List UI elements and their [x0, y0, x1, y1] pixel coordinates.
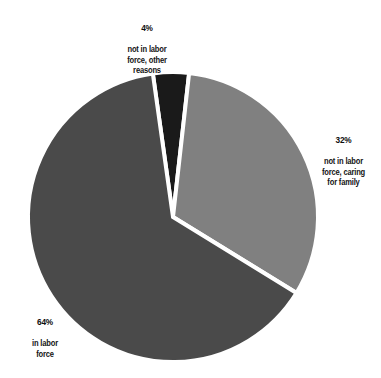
- slice-label-caring-for-family: 32% not in labor force, caring for famil…: [311, 124, 377, 198]
- slice-description-other-reasons: not in labor force, other reasons: [90, 44, 204, 75]
- pie-chart-figure: 4% not in labor force, other reasons 32%…: [0, 0, 381, 378]
- slice-label-other-reasons: 4% not in labor force, other reasons: [90, 12, 204, 86]
- slice-percent-other-reasons: 4%: [90, 22, 204, 34]
- slice-percent-in-labor-force: 64%: [7, 316, 83, 328]
- slice-description-in-labor-force: in labor force: [7, 338, 83, 359]
- slice-description-caring-for-family: not in labor force, caring for family: [311, 156, 377, 187]
- slice-label-in-labor-force: 64% in labor force: [7, 306, 83, 370]
- slice-percent-caring-for-family: 32%: [311, 134, 377, 146]
